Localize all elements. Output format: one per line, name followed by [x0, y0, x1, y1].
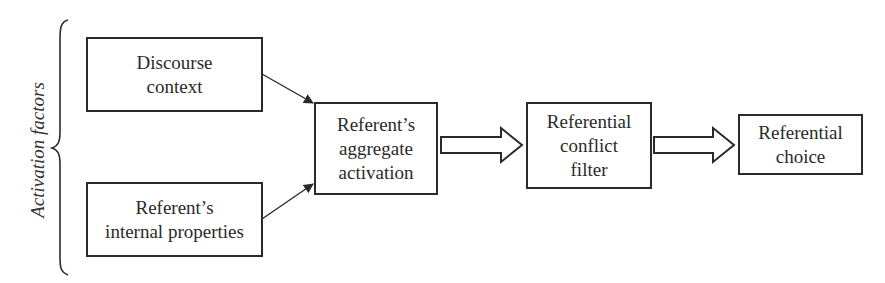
node-internal-properties: Referent’s internal properties [86, 182, 263, 257]
node-label: Referential choice [758, 121, 842, 169]
block-arrow-filter-to-choice [654, 128, 734, 162]
node-aggregate-activation: Referent’s aggregate activation [314, 102, 438, 195]
node-conflict-filter: Referential conflict filter [526, 102, 652, 189]
curly-brace-icon [52, 20, 68, 275]
node-referential-choice: Referential choice [738, 114, 863, 175]
arrow-discourse-to-aggregate [262, 74, 313, 103]
arrow-internal-to-aggregate [262, 184, 313, 219]
node-label: Referential conflict filter [547, 110, 631, 182]
node-label: Referent’s internal properties [105, 196, 244, 244]
node-discourse-context: Discourse context [86, 37, 263, 112]
activation-factors-label: Activation factors [27, 82, 49, 218]
node-label: Discourse context [137, 51, 213, 99]
node-label: Referent’s aggregate activation [337, 113, 415, 185]
block-arrow-aggregate-to-filter [441, 128, 522, 162]
